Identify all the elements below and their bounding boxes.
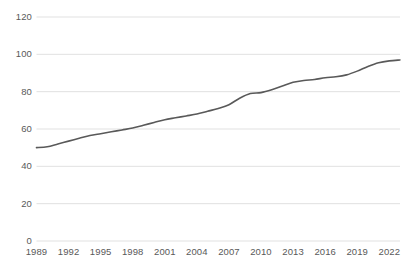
x-axis-tick-labels: 1989199219951998200120042007201020132016… (0, 0, 414, 268)
line-chart: 020406080100120 198919921995199820012004… (0, 0, 414, 268)
x-tick-label-2022: 2022 (369, 247, 409, 257)
